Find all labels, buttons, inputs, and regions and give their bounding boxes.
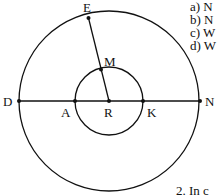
label-k: K bbox=[147, 105, 157, 120]
label-m: M bbox=[104, 54, 116, 69]
concentric-circles-diagram: E M D A R K N bbox=[0, 0, 220, 195]
next-question-text: 2. In c bbox=[176, 184, 209, 195]
point-e bbox=[87, 16, 91, 20]
question-d: d) W bbox=[190, 39, 216, 53]
point-a bbox=[73, 99, 77, 103]
point-n bbox=[198, 99, 202, 103]
label-d: D bbox=[3, 94, 12, 109]
point-k bbox=[141, 99, 145, 103]
label-r: R bbox=[104, 105, 113, 120]
point-r bbox=[107, 99, 111, 103]
point-m bbox=[99, 68, 103, 72]
label-n: N bbox=[205, 94, 215, 109]
point-d bbox=[17, 99, 21, 103]
label-a: A bbox=[61, 105, 71, 120]
label-e: E bbox=[83, 0, 91, 15]
